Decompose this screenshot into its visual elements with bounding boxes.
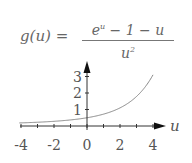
y-tick-label: 3: [73, 69, 82, 85]
axes: [20, 61, 166, 130]
y-tick-label: 1: [73, 102, 82, 118]
plot-area: -4-2024123u: [0, 0, 192, 163]
x-tick-label: 0: [83, 137, 92, 153]
x-tick-label: -4: [14, 137, 28, 153]
x-tick-label: 4: [149, 137, 158, 153]
curve-layer: [19, 75, 153, 123]
tick-labels: -4-2024123u: [14, 69, 179, 154]
y-tick-label: 2: [73, 85, 82, 101]
g-curve: [19, 75, 153, 123]
x-tick-label: 2: [116, 137, 125, 153]
x-axis-label: u: [170, 117, 180, 135]
y-axis-arrow-icon: [84, 61, 91, 73]
x-tick-label: -2: [47, 137, 61, 153]
x-axis-arrow-icon: [154, 123, 166, 130]
